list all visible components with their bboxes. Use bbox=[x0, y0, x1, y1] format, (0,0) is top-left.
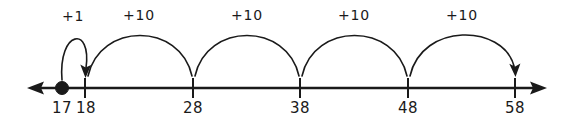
jump-arc-38-to-48 bbox=[302, 36, 407, 77]
jump-arcs-group bbox=[62, 35, 521, 80]
jump-arc-plus-1 bbox=[62, 39, 87, 80]
tick-label-38: 38 bbox=[290, 99, 310, 117]
jump-label-18-to-28: +10 bbox=[123, 7, 155, 23]
tick-label-28: 28 bbox=[183, 99, 203, 117]
jump-arc-18-to-28 bbox=[88, 36, 192, 77]
tick-labels-group: 17 18 28 38 48 58 bbox=[52, 99, 525, 117]
axis-group bbox=[27, 82, 547, 95]
number-line-figure: +1 +10 +10 +10 +10 17 18 28 38 48 58 bbox=[0, 0, 574, 124]
jump-arc-28-to-38 bbox=[195, 36, 299, 77]
tick-label-58: 58 bbox=[505, 99, 525, 117]
jump-arrowhead-58-icon bbox=[509, 63, 520, 77]
tick-label-18: 18 bbox=[76, 99, 96, 117]
jump-arc-48-to-58 bbox=[410, 35, 514, 76]
jump-label-28-to-38: +10 bbox=[231, 7, 263, 23]
jump-labels-group: +1 +10 +10 +10 +10 bbox=[62, 7, 478, 24]
jump-label-48-to-58: +10 bbox=[446, 7, 478, 23]
tick-label-17: 17 bbox=[52, 99, 72, 117]
number-line-canvas: +1 +10 +10 +10 +10 17 18 28 38 48 58 bbox=[0, 0, 574, 124]
jump-label-plus-1: +1 bbox=[62, 8, 84, 24]
start-point-dot bbox=[56, 82, 69, 95]
tick-label-48: 48 bbox=[398, 99, 418, 117]
jump-label-38-to-48: +10 bbox=[338, 7, 370, 23]
